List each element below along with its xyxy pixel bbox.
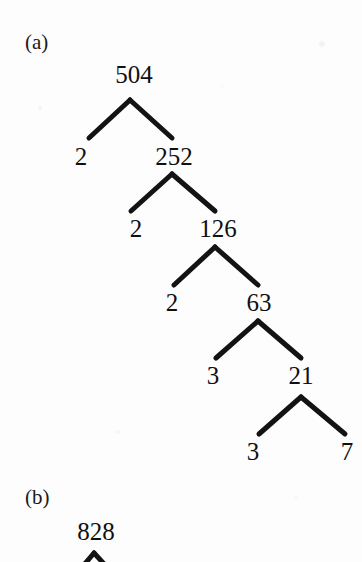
branch-a-2 — [131, 174, 215, 211]
node-2-level2: 2 — [130, 216, 143, 241]
branch-b-1 — [83, 553, 106, 562]
branch-a-3 — [174, 247, 258, 285]
node-63: 63 — [247, 290, 272, 315]
node-252: 252 — [155, 144, 193, 169]
branch-a-1 — [89, 100, 172, 138]
node-3-level5: 3 — [247, 439, 260, 464]
branch-lines-panel-a — [0, 0, 362, 562]
node-7: 7 — [341, 439, 354, 464]
factor-tree-figure: (a) 504 2 252 2 126 2 63 3 21 3 7 (b) 82… — [0, 0, 362, 562]
node-126: 126 — [199, 216, 237, 241]
node-3-level4: 3 — [207, 363, 220, 388]
node-2-level1: 2 — [75, 144, 88, 169]
node-828: 828 — [77, 519, 115, 544]
branch-a-5 — [259, 397, 345, 434]
panel-label-a: (a) — [25, 32, 48, 53]
panel-label-b: (b) — [25, 487, 50, 508]
node-2-level3: 2 — [166, 290, 179, 315]
node-504: 504 — [115, 62, 153, 87]
branch-a-4 — [216, 321, 301, 358]
node-21: 21 — [289, 363, 314, 388]
